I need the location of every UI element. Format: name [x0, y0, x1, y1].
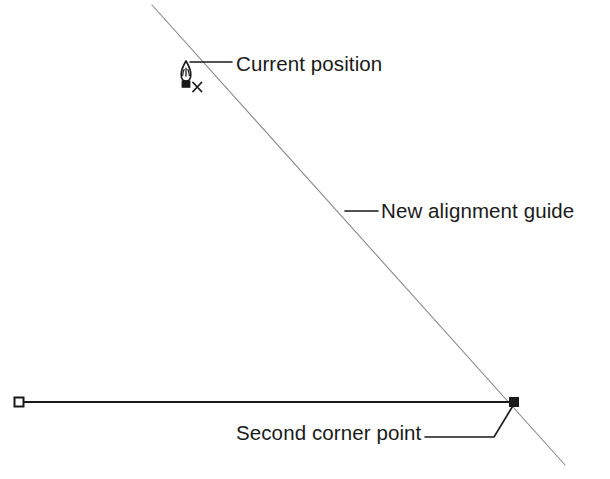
hollow-square-node-icon — [15, 398, 24, 407]
pen-nib-cursor-icon — [181, 61, 191, 88]
figure-canvas: Current position New alignment guide Sec… — [0, 0, 610, 479]
label-second-corner-point: Second corner point — [236, 423, 421, 444]
label-current-position: Current position — [236, 54, 382, 75]
second-corner-point-leader — [425, 404, 514, 437]
x-badge-icon — [193, 83, 202, 92]
label-new-alignment-guide: New alignment guide — [381, 201, 574, 222]
